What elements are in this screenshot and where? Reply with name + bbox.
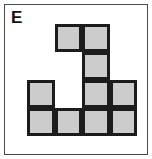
polyomino-grid <box>27 24 137 136</box>
polyomino-cell <box>82 52 110 80</box>
polyomino-cell <box>82 80 110 108</box>
polyomino-cell <box>55 108 83 136</box>
polyomino-cell <box>82 24 110 52</box>
polyomino-cell <box>27 80 55 108</box>
polyomino-cell <box>27 108 55 136</box>
tile-label: E <box>11 9 22 26</box>
polyomino-cell <box>110 108 138 136</box>
polyomino-cell <box>82 108 110 136</box>
tile-frame: E <box>4 4 148 155</box>
polyomino-cell <box>110 80 138 108</box>
tile-panel: E <box>0 0 152 159</box>
polyomino-cell <box>55 24 83 52</box>
